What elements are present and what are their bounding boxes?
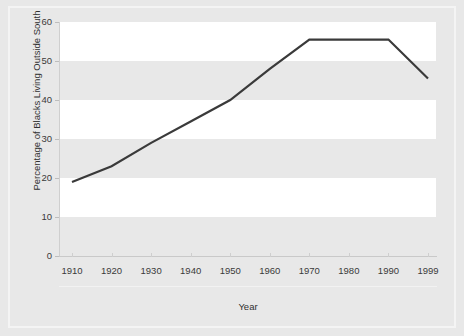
y-tick-mark xyxy=(55,139,59,140)
y-tick-label: 0 xyxy=(18,251,52,261)
x-tick-label: 1930 xyxy=(129,266,173,276)
x-tick-label: 1920 xyxy=(90,266,134,276)
y-tick-mark xyxy=(55,22,59,23)
bottom-rule xyxy=(59,286,437,287)
x-tick-label: 1960 xyxy=(248,266,292,276)
y-tick-mark xyxy=(55,61,59,62)
x-tick-label: 1940 xyxy=(169,266,213,276)
y-axis-title: Percentage of Blacks Living Outside Sout… xyxy=(31,1,42,201)
x-tick-label: 1970 xyxy=(287,266,331,276)
y-tick-mark xyxy=(55,100,59,101)
x-tick-label: 1980 xyxy=(327,266,371,276)
y-tick-mark xyxy=(55,217,59,218)
x-tick-label: 1950 xyxy=(208,266,252,276)
x-tick-label: 1999 xyxy=(406,266,450,276)
data-series-line xyxy=(60,22,436,256)
y-tick-mark xyxy=(55,178,59,179)
x-axis-title: Year xyxy=(60,301,436,312)
x-axis-line xyxy=(59,256,437,257)
x-tick-label: 1990 xyxy=(366,266,410,276)
y-tick-label: 10 xyxy=(18,212,52,222)
x-tick-label: 1910 xyxy=(50,266,94,276)
y-tick-mark xyxy=(55,256,59,257)
chart-figure: 0102030405060 19101920193019401950196019… xyxy=(0,0,464,336)
